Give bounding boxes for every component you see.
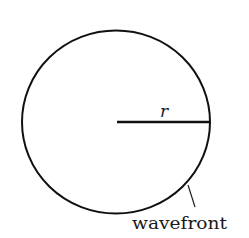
wavefront-label: wavefront (132, 213, 227, 233)
leader-line (188, 185, 195, 207)
wavefront-diagram: r wavefront (0, 0, 249, 238)
radius-label: r (160, 101, 169, 121)
